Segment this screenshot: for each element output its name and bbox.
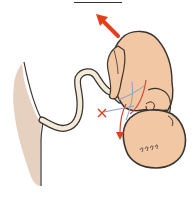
- direction-arrow-icon: [96, 14, 118, 36]
- fetus-diagram: [0, 0, 196, 199]
- fetus-head: [123, 110, 185, 168]
- cross-mark-icon: [98, 109, 106, 117]
- umbilical-cord: [42, 72, 120, 129]
- placenta: [13, 62, 42, 186]
